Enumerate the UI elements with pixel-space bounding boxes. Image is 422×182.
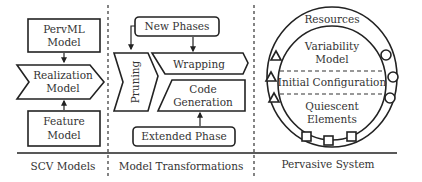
pervasive-system-label: Pervasive System	[281, 158, 374, 170]
scv-models-label: SCV Models	[31, 160, 96, 172]
quiescent-elements-line1: Quiescent	[305, 100, 359, 112]
quiescent-elements-line2: Elements	[307, 113, 357, 125]
feature-model-line2: Model	[47, 129, 81, 141]
diagram-canvas: PervML Model Realization Model Feature M…	[0, 0, 422, 182]
resources-label: Resources	[304, 13, 359, 25]
code-generation-line1: Code	[189, 83, 216, 95]
pervml-model-line2: Model	[47, 36, 81, 48]
pruning-label: Pruning	[129, 60, 141, 103]
new-phases-label: New Phases	[145, 20, 210, 32]
pervasive-system-section: Resources Variability Model Initial Conf…	[266, 7, 398, 170]
pervml-model-line1: PervML	[43, 23, 85, 35]
code-generation-line2: Generation	[173, 96, 233, 108]
variability-model-line1: Variability	[304, 40, 360, 52]
extended-phase-label: Extended Phase	[141, 130, 226, 142]
model-transformations-section: New Phases Pruning Wrapping Code Generat…	[114, 17, 248, 172]
square-icon	[347, 132, 356, 141]
initial-configuration-label: Initial Configuration	[278, 76, 387, 88]
square-icon	[302, 132, 311, 141]
scv-models-section: PervML Model Realization Model Feature M…	[17, 19, 104, 172]
realization-model-line2: Model	[46, 82, 80, 94]
circle-icon	[381, 50, 391, 60]
variability-model-line2: Model	[315, 53, 349, 65]
model-transformations-label: Model Transformations	[119, 160, 244, 172]
realization-model-line1: Realization	[33, 69, 93, 81]
circle-icon	[385, 93, 395, 103]
feature-model-line1: Feature	[43, 115, 84, 127]
wrapping-label: Wrapping	[173, 58, 225, 70]
circle-icon	[388, 72, 398, 82]
square-icon	[324, 136, 333, 145]
